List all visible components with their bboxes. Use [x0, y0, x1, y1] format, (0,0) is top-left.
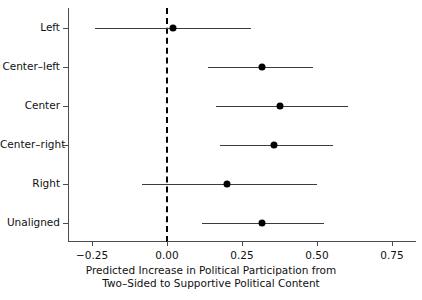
x-axis-title-line-2: Two–Sided to Supportive Political Conten… [0, 277, 422, 290]
point-estimate-marker [170, 24, 177, 31]
x-axis-tick-label: 0.75 [380, 249, 403, 261]
x-axis-tick [317, 241, 318, 246]
y-axis-tick-label: Center [0, 100, 60, 111]
y-axis-tick [63, 28, 68, 29]
x-axis-tick-label: 0.00 [155, 249, 178, 261]
point-estimate-marker [259, 219, 266, 226]
y-axis-tick [63, 184, 68, 185]
y-axis-line [68, 8, 69, 242]
y-axis-tick [63, 67, 68, 68]
x-axis-tick-label: 0.50 [305, 249, 328, 261]
point-estimate-marker [276, 102, 283, 109]
point-estimate-marker [258, 63, 265, 70]
zero-reference-line [166, 8, 168, 242]
y-axis-tick [63, 223, 68, 224]
point-estimate-marker [224, 180, 231, 187]
y-axis-tick [63, 106, 68, 107]
y-axis-tick-label: Left [0, 22, 60, 33]
y-axis-tick-label: Center–left [0, 61, 60, 72]
y-axis-tick-label: Center–right [0, 139, 60, 150]
x-axis-title-line-1: Predicted Increase in Political Particip… [0, 264, 422, 277]
x-axis-tick-label: 0.25 [230, 249, 253, 261]
x-axis-tick [392, 241, 393, 246]
x-axis-tick [167, 241, 168, 246]
coefficient-plot: LeftCenter–leftCenterCenter–rightRightUn… [0, 0, 422, 300]
x-axis-tick-label: −0.25 [76, 249, 108, 261]
y-axis-tick-label: Unaligned [0, 217, 60, 228]
x-axis-tick [242, 241, 243, 246]
point-estimate-marker [270, 141, 277, 148]
x-axis-tick [92, 241, 93, 246]
y-axis-tick-label: Right [0, 178, 60, 189]
